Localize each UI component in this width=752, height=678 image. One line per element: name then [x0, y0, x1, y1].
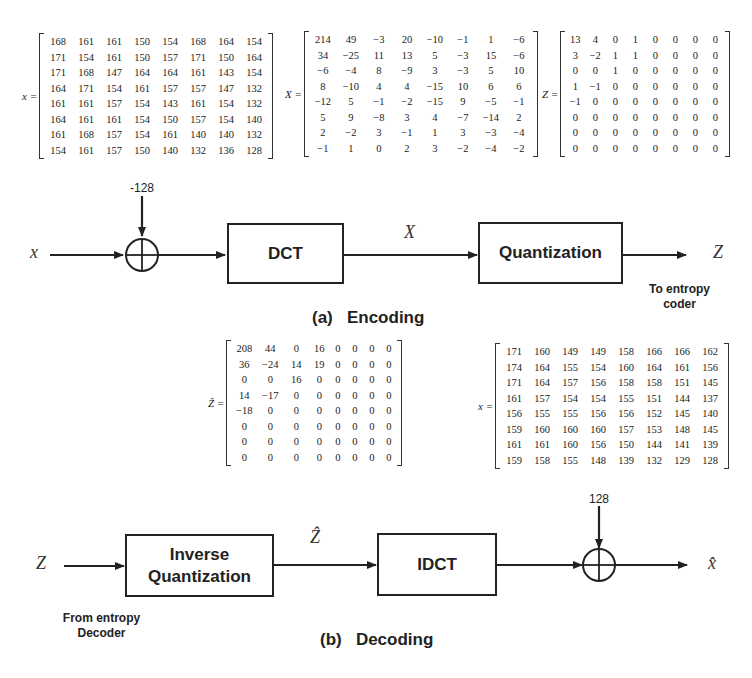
- matrix-cell: 15: [477, 48, 505, 64]
- matrix-cell: 143: [212, 65, 240, 81]
- matrix-cell: 160: [612, 360, 640, 376]
- matrix-cell: 164: [528, 360, 556, 376]
- matrix-cell: 2: [309, 125, 337, 141]
- matrix-cell: 161: [100, 112, 128, 128]
- matrix-cell: 4: [393, 79, 421, 95]
- matrix-cell: −9: [393, 63, 421, 79]
- matrix-cell: 160: [556, 437, 584, 453]
- matrix-body: 1681611611501541681641541711541611501571…: [39, 33, 273, 159]
- matrix-label: x =: [478, 400, 493, 412]
- matrix-cell: 141: [668, 437, 696, 453]
- matrix-cell: 128: [696, 453, 724, 469]
- matrix-cell: 0: [665, 48, 685, 64]
- matrix-cell: 0: [309, 403, 329, 419]
- matrix-cell: 2: [393, 141, 421, 157]
- matrix-cell: −17: [257, 388, 283, 404]
- matrix-cell: 171: [500, 375, 528, 391]
- matrix-cell: 164: [212, 34, 240, 50]
- matrix-cell: 0: [625, 125, 645, 141]
- matrix-cell: 0: [705, 32, 725, 48]
- offset-128-label: 128: [584, 492, 614, 507]
- matrix-cell: 0: [346, 434, 363, 450]
- matrix-cell: 0: [346, 388, 363, 404]
- matrix-cell: 0: [565, 141, 585, 157]
- block-line-2: Quantization: [148, 566, 251, 588]
- matrix-cell: 151: [668, 375, 696, 391]
- matrix-cell: −6: [309, 63, 337, 79]
- matrix-cell: 0: [685, 141, 705, 157]
- matrix-cell: 0: [645, 79, 665, 95]
- matrix-cell: 164: [640, 360, 668, 376]
- matrix-cell: 161: [184, 96, 212, 112]
- matrix-cell: 5: [309, 110, 337, 126]
- matrix-cell: 168: [184, 34, 212, 50]
- matrix-cell: 0: [346, 403, 363, 419]
- matrix-cell: −15: [421, 79, 449, 95]
- matrix-cell: 0: [665, 63, 685, 79]
- matrix-cell: 0: [309, 419, 329, 435]
- matrix-cell: 145: [696, 422, 724, 438]
- matrix-cell: 161: [184, 65, 212, 81]
- matrix-cell: 147: [100, 65, 128, 81]
- matrix-cell: 157: [184, 81, 212, 97]
- matrix-cell: 140: [184, 127, 212, 143]
- matrix-cell: 0: [685, 79, 705, 95]
- matrix-cell: 161: [528, 437, 556, 453]
- matrix-cell: 0: [365, 141, 393, 157]
- matrix-cell: 0: [605, 94, 625, 110]
- matrix-cell: 10: [505, 63, 533, 79]
- matrix-cell: −1: [449, 32, 477, 48]
- matrix-cell: 0: [685, 125, 705, 141]
- matrix-cell: −6: [505, 48, 533, 64]
- matrix-cell: 0: [283, 403, 309, 419]
- matrix-cell: 0: [685, 94, 705, 110]
- matrix-cell: 155: [612, 391, 640, 407]
- matrix-cell: 6: [477, 79, 505, 95]
- matrix-cell: 158: [640, 375, 668, 391]
- X-symbol: X: [404, 222, 415, 243]
- matrix-cell: −3: [449, 48, 477, 64]
- matrix-cell: 164: [44, 81, 72, 97]
- matrix-cell: −3: [477, 125, 505, 141]
- matrix-cell: 16: [309, 341, 329, 357]
- matrix-cell: 161: [72, 112, 100, 128]
- matrix-cell: 151: [640, 391, 668, 407]
- block-line-1: Inverse: [170, 544, 230, 566]
- matrix-cell: 0: [363, 372, 380, 388]
- matrix-cell: 1: [625, 48, 645, 64]
- matrix-cell: 0: [665, 32, 685, 48]
- matrix-cell: 0: [380, 434, 397, 450]
- matrix-cell: 0: [346, 357, 363, 373]
- matrix-cell: 132: [240, 127, 268, 143]
- matrix-cell: 152: [640, 406, 668, 422]
- matrix-cell: 171: [72, 81, 100, 97]
- to-entropy-coder-note: To entropy coder: [632, 282, 727, 312]
- matrix-cell: 157: [156, 81, 184, 97]
- matrix-cell: −1: [309, 141, 337, 157]
- matrix-cell: 0: [605, 32, 625, 48]
- matrix-cell: 154: [212, 96, 240, 112]
- matrix-x-input: x = 168161161150154168164154171154161150…: [22, 33, 273, 159]
- matrix-cell: 3: [449, 125, 477, 141]
- matrix-cell: 159: [500, 453, 528, 469]
- matrix-cell: 0: [685, 63, 705, 79]
- matrix-cell: 1: [625, 32, 645, 48]
- matrix-cell: 154: [44, 143, 72, 159]
- matrix-cell: 154: [72, 50, 100, 66]
- matrix-cell: 0: [665, 94, 685, 110]
- matrix-cell: 0: [329, 403, 346, 419]
- matrix-cell: 1: [605, 63, 625, 79]
- matrix-cell: −3: [449, 63, 477, 79]
- matrix-cell: 137: [696, 391, 724, 407]
- input-Z-symbol: Z: [36, 553, 46, 574]
- matrix-cell: 0: [565, 110, 585, 126]
- matrix-cell: 0: [309, 372, 329, 388]
- matrix-cell: 164: [44, 112, 72, 128]
- matrix-cell: 0: [645, 110, 665, 126]
- matrix-cell: 0: [705, 94, 725, 110]
- matrix-cell: 171: [184, 50, 212, 66]
- matrix-cell: 0: [380, 372, 397, 388]
- matrix-cell: 0: [705, 79, 725, 95]
- matrix-cell: 0: [665, 141, 685, 157]
- matrix-cell: 145: [668, 406, 696, 422]
